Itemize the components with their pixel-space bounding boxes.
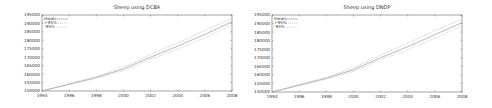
x-tick-label: 1994 <box>267 94 278 99</box>
series-line-1 <box>272 19 462 92</box>
x-tick-label: 2002 <box>145 93 156 98</box>
chart-title: Sheep using DCBA <box>114 4 161 11</box>
x-tick-label: 2006 <box>430 94 441 99</box>
series-line-1 <box>42 18 232 91</box>
plot-frame <box>42 15 232 91</box>
x-tick-label: 2000 <box>348 94 359 99</box>
chart-title: Sheep using DNDP <box>344 4 391 11</box>
plot-frame <box>272 15 462 92</box>
series-line-2 <box>272 26 462 92</box>
y-tick-label: 180000 <box>254 38 270 43</box>
legend-label: -95% <box>44 24 55 29</box>
x-tick-label: 1998 <box>321 94 332 99</box>
y-tick-label: 160000 <box>254 72 270 77</box>
y-tick-label: 195000 <box>24 12 40 17</box>
y-tick-label: 175000 <box>24 46 40 51</box>
x-tick-label: 1996 <box>64 93 75 98</box>
line-chart-dcba: Sheep using DCBA150000155000160000165000… <box>0 0 246 108</box>
chart-dndp: Sheep using DNDP150000155000160000165000… <box>246 0 492 108</box>
x-tick-label: 1994 <box>37 93 48 98</box>
y-tick-label: 180000 <box>24 38 40 43</box>
y-tick-label: 165000 <box>24 63 40 68</box>
y-tick-label: 195000 <box>254 12 270 17</box>
legend-label: -95% <box>274 24 285 29</box>
y-tick-label: 185000 <box>254 30 270 35</box>
series-line-0 <box>42 22 232 91</box>
x-tick-label: 1996 <box>294 94 305 99</box>
x-tick-label: 2008 <box>227 93 238 98</box>
y-tick-label: 155000 <box>254 81 270 86</box>
x-tick-label: 2006 <box>200 93 211 98</box>
x-tick-label: 2004 <box>402 94 413 99</box>
y-tick-label: 185000 <box>24 29 40 34</box>
y-tick-label: 190000 <box>24 21 40 26</box>
line-chart-dndp: Sheep using DNDP150000155000160000165000… <box>246 0 492 108</box>
x-tick-label: 2002 <box>375 94 386 99</box>
series-line-0 <box>272 23 462 92</box>
x-tick-label: 2004 <box>172 93 183 98</box>
chart-dcba: Sheep using DCBA150000155000160000165000… <box>0 0 246 108</box>
y-tick-label: 155000 <box>24 80 40 85</box>
x-tick-label: 2000 <box>118 93 129 98</box>
y-tick-label: 175000 <box>254 47 270 52</box>
y-tick-label: 160000 <box>24 72 40 77</box>
y-tick-label: 170000 <box>254 55 270 60</box>
y-tick-label: 165000 <box>254 64 270 69</box>
x-tick-label: 1998 <box>91 93 102 98</box>
x-tick-label: 2008 <box>457 94 468 99</box>
y-tick-label: 190000 <box>254 21 270 26</box>
y-tick-label: 170000 <box>24 55 40 60</box>
